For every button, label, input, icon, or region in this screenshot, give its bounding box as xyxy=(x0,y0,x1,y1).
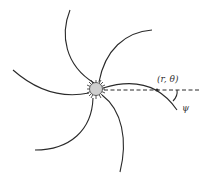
spiral-diagram: (r, θ) ψ xyxy=(0,0,200,180)
spiral-arm-upper-right xyxy=(99,30,152,82)
angle-psi-arc xyxy=(173,90,177,101)
spiral-arm-right xyxy=(103,84,177,110)
central-body xyxy=(87,80,105,99)
spiral-arm-lower-right xyxy=(102,95,123,172)
point-marker xyxy=(155,88,158,91)
point-label: (r, θ) xyxy=(157,74,179,84)
angle-label: ψ xyxy=(182,103,190,113)
spiral-arm-lower-left xyxy=(35,98,93,150)
spiral-arm-left xyxy=(13,70,89,95)
spiral-arm-top xyxy=(65,10,94,83)
